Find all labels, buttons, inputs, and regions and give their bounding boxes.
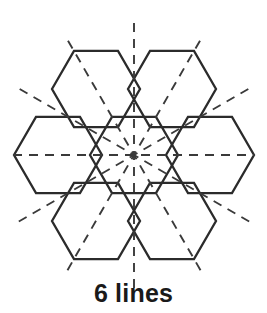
symmetry-figure: 6 lines (0, 0, 267, 313)
figure-caption: 6 lines (0, 278, 267, 308)
hexagon-flower-diagram (0, 0, 267, 313)
symmetry-lines (13, 22, 255, 288)
